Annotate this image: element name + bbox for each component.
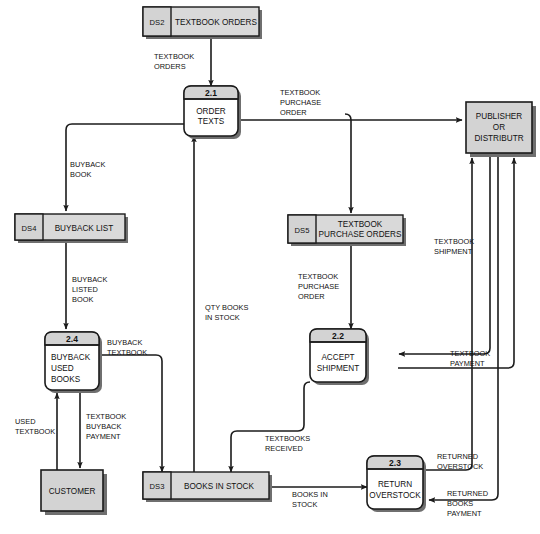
flow-label-line: ORDER — [280, 108, 307, 117]
flow-label-line: PAYMENT — [450, 359, 485, 368]
flow-label-line: IN STOCK — [205, 313, 240, 322]
process-2-4-label-line3: BOOKS — [51, 375, 81, 384]
flow-label-line: ORDER — [298, 292, 325, 301]
process-2-1-label-line1: ORDER — [196, 107, 226, 116]
flow-label-line: USED — [15, 417, 36, 426]
data-store-ds2[interactable]: DS2 TEXTBOOK ORDERS — [143, 7, 262, 39]
flow-label-line: BUYBACK — [107, 338, 142, 347]
process-2-2[interactable]: 2.2 ACCEPT SHIPMENT — [310, 329, 369, 385]
process-2-1-label-line2: TEXTS — [198, 117, 225, 126]
process-2-2-label-line2: SHIPMENT — [317, 364, 359, 373]
customer-label: CUSTOMER — [49, 487, 96, 496]
flow-label-books-in-stock: BOOKS IN STOCK — [292, 490, 328, 509]
ds2-name: TEXTBOOK ORDERS — [175, 18, 257, 27]
flow-label-textbook-buyback-payment: TEXTBOOK BUYBACK PAYMENT — [86, 412, 126, 441]
flow-label-line: BOOKS IN — [292, 490, 328, 499]
flow-label-line: SHIPMENT — [434, 247, 473, 256]
flow-label-line: TEXTBOOK — [450, 349, 490, 358]
ds4-name: BUYBACK LIST — [55, 224, 114, 233]
process-2-4-number: 2.4 — [66, 334, 78, 344]
flow-label-line: LISTED — [72, 285, 98, 294]
flow-label-line: ORDERS — [154, 62, 186, 71]
flow-label-line: RETURNED — [447, 489, 488, 498]
flow-label-qty-books-in-stock: QTY BOOKS IN STOCK — [205, 303, 248, 322]
flow-label-line: OVERSTOCK — [437, 462, 483, 471]
ds4-id: DS4 — [22, 224, 37, 233]
flow-label-buyback-textbook: BUYBACK TEXTBOOK — [107, 338, 147, 357]
flow-label-line: TEXTBOOK — [280, 88, 320, 97]
process-2-2-label-line1: ACCEPT — [321, 353, 354, 362]
flow-label-line: TEXTBOOK — [15, 427, 55, 436]
flow-label-line: BOOKS — [447, 499, 473, 508]
flow-textbook-purchase-order-to-store — [345, 114, 351, 213]
flow-label-line: TEXTBOOK — [298, 272, 338, 281]
ds3-name: BOOKS IN STOCK — [184, 482, 254, 491]
process-2-4-label-line1: BUYBACK — [51, 353, 91, 362]
process-2-3-label-line2: OVERSTOCK — [369, 491, 421, 500]
flow-label-line: TEXTBOOKS — [265, 434, 310, 443]
entity-customer[interactable]: CUSTOMER — [41, 470, 107, 515]
dfd-svg: DS2 TEXTBOOK ORDERS 2.1 ORDER TEXTS PUBL… — [0, 0, 540, 534]
flow-returned-overstock — [423, 158, 472, 470]
ds3-id: DS3 — [150, 482, 165, 491]
flow-label-line: BOOK — [72, 295, 93, 304]
flow-label-line: PURCHASE — [280, 98, 321, 107]
flow-label-line: TEXTBOOK — [86, 412, 126, 421]
flow-label-line: TEXTBOOK — [154, 52, 194, 61]
flow-returned-books-payment — [429, 157, 498, 500]
flow-label-line: PAYMENT — [86, 432, 121, 441]
ds5-id: DS5 — [295, 226, 310, 235]
flow-label-line: QTY BOOKS — [205, 303, 248, 312]
data-store-ds3[interactable]: DS3 BOOKS IN STOCK — [143, 472, 272, 502]
flow-label-line: BUYBACK — [70, 160, 105, 169]
flow-label-textbook-purchase-order-store: TEXTBOOK PURCHASE ORDER — [298, 272, 339, 301]
flow-label-used-textbook: USED TEXTBOOK — [15, 417, 55, 436]
flow-label-buyback-listed-book: BUYBACK LISTED BOOK — [72, 275, 107, 304]
flow-label-textbook-payment: TEXTBOOK PAYMENT — [450, 349, 490, 368]
flow-label-textbook-shipment: TEXTBOOK SHIPMENT — [434, 237, 474, 256]
flow-textbook-payment — [398, 158, 514, 368]
flow-label-line: TEXTBOOK — [107, 348, 147, 357]
process-2-4-label-line2: USED — [51, 364, 74, 373]
flow-label-line: BUYBACK — [72, 275, 107, 284]
flow-label-line: TEXTBOOK — [434, 237, 474, 246]
flow-label-line: PAYMENT — [447, 509, 482, 518]
flow-label-line: STOCK — [292, 500, 317, 509]
process-2-1-number: 2.1 — [205, 88, 217, 98]
flow-label-returned-books-payment: RETURNED BOOKS PAYMENT — [447, 489, 488, 518]
process-2-4[interactable]: 2.4 BUYBACK USED BOOKS — [45, 332, 102, 393]
flow-label-line: BOOK — [70, 170, 91, 179]
flow-label-line: BUYBACK — [86, 422, 121, 431]
publisher-label-line3: DISTRIBUTR — [474, 134, 523, 143]
process-2-1[interactable]: 2.1 ORDER TEXTS — [184, 86, 241, 139]
entity-publisher-or-distributor[interactable]: PUBLISHER OR DISTRIBUTR — [466, 102, 536, 157]
flow-label-buyback-book: BUYBACK BOOK — [70, 160, 105, 179]
flow-label-textbook-orders: TEXTBOOK ORDERS — [154, 52, 194, 71]
ds2-id: DS2 — [150, 18, 165, 27]
process-2-3[interactable]: 2.3 RETURN OVERSTOCK — [367, 456, 426, 512]
flow-label-line: RECEIVED — [265, 444, 303, 453]
flow-label-textbook-purchase-order-publisher: TEXTBOOK PURCHASE ORDER — [280, 88, 321, 117]
data-store-ds4[interactable]: DS4 BUYBACK LIST — [15, 214, 128, 243]
process-2-3-label-line1: RETURN — [378, 480, 412, 489]
publisher-label-line2: OR — [493, 123, 505, 132]
flow-label-line: RETURNED — [437, 452, 478, 461]
data-flow-diagram-canvas: DS2 TEXTBOOK ORDERS 2.1 ORDER TEXTS PUBL… — [0, 0, 540, 534]
flow-textbooks-received — [231, 382, 310, 472]
ds5-name-line1: TEXTBOOK — [338, 220, 383, 229]
process-2-3-number: 2.3 — [389, 458, 401, 468]
flow-label-returned-overstock: RETURNED OVERSTOCK — [437, 452, 483, 471]
ds5-name-line2: PURCHASE ORDERS — [319, 230, 402, 239]
flow-label-line: PURCHASE — [298, 282, 339, 291]
publisher-label-line1: PUBLISHER — [476, 112, 522, 121]
flow-label-textbooks-received: TEXTBOOKS RECEIVED — [265, 434, 310, 453]
process-2-2-number: 2.2 — [332, 331, 344, 341]
data-store-ds5[interactable]: DS5 TEXTBOOK PURCHASE ORDERS — [288, 215, 406, 246]
